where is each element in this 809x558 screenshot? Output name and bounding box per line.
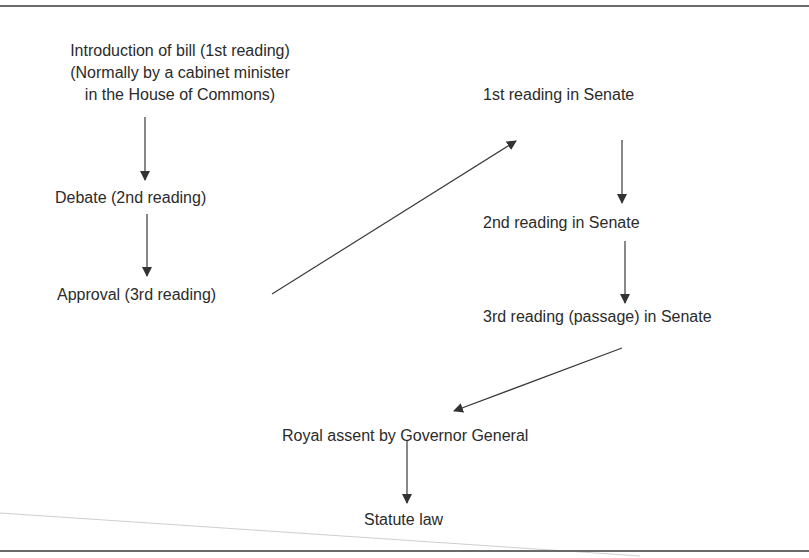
arrow-senate3-to-assent: [454, 348, 622, 411]
arrow-approval-to-senate1: [272, 141, 516, 294]
arrows-layer: [0, 0, 809, 558]
bottom-rule: [0, 550, 809, 552]
